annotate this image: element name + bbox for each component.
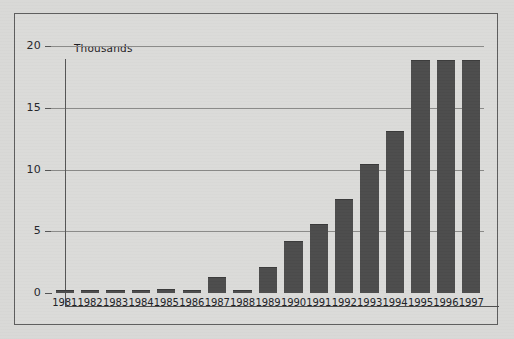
bar-fill-1997 xyxy=(462,60,480,293)
x-tick-label-1991: 1991 xyxy=(306,297,331,308)
bar-1985[interactable] xyxy=(157,46,175,293)
bar-fill-1996 xyxy=(437,60,455,293)
bar-1990[interactable] xyxy=(284,46,302,293)
y-tick-label-10: 10 xyxy=(0,163,41,176)
bar-fill-1981 xyxy=(56,290,74,293)
bar-series xyxy=(52,46,484,293)
x-tick-label-1993: 1993 xyxy=(357,297,382,308)
x-tick-label-1996: 1996 xyxy=(433,297,458,308)
x-tick-label-1995: 1995 xyxy=(408,297,433,308)
bar-1995[interactable] xyxy=(411,46,429,293)
x-tick-label-1989: 1989 xyxy=(255,297,280,308)
x-tick-label-1981: 1981 xyxy=(52,297,77,308)
x-tick-label-1992: 1992 xyxy=(332,297,357,308)
bar-1992[interactable] xyxy=(335,46,353,293)
x-tick-label-1997: 1997 xyxy=(459,297,484,308)
bar-fill-1986 xyxy=(183,290,201,293)
bar-1986[interactable] xyxy=(183,46,201,293)
x-tick-label-1987: 1987 xyxy=(204,297,229,308)
bar-fill-1989 xyxy=(259,267,277,293)
bar-fill-1993 xyxy=(360,164,378,293)
x-tick-label-1988: 1988 xyxy=(230,297,255,308)
bar-1988[interactable] xyxy=(233,46,251,293)
y-tick-label-0: 0 xyxy=(0,286,41,299)
x-tick-label-1984: 1984 xyxy=(128,297,153,308)
x-tick-label-1994: 1994 xyxy=(382,297,407,308)
y-tick-label-5: 5 xyxy=(0,224,41,237)
y-tick-label-15: 15 xyxy=(0,101,41,114)
bar-1991[interactable] xyxy=(310,46,328,293)
bar-fill-1988 xyxy=(233,290,251,293)
bar-fill-1983 xyxy=(106,290,124,293)
bar-fill-1994 xyxy=(386,131,404,293)
bar-1982[interactable] xyxy=(81,46,99,293)
bar-1994[interactable] xyxy=(386,46,404,293)
bar-fill-1995 xyxy=(411,60,429,293)
bar-1997[interactable] xyxy=(462,46,480,293)
x-tick-label-1983: 1983 xyxy=(103,297,128,308)
bar-1983[interactable] xyxy=(106,46,124,293)
bar-fill-1992 xyxy=(335,199,353,293)
bar-fill-1984 xyxy=(132,290,150,293)
bar-fill-1982 xyxy=(81,290,99,293)
x-axis-tick-labels: 1981198219831984198519861987198819891990… xyxy=(52,297,484,315)
y-axis-tick-labels: 05101520 xyxy=(15,14,57,339)
y-tick-mark-0 xyxy=(45,293,52,294)
bar-1987[interactable] xyxy=(208,46,226,293)
bar-1984[interactable] xyxy=(132,46,150,293)
bar-fill-1990 xyxy=(284,241,302,293)
bar-fill-1985 xyxy=(157,289,175,293)
y-tick-label-20: 20 xyxy=(0,39,41,52)
x-tick-label-1985: 1985 xyxy=(154,297,179,308)
x-tick-label-1986: 1986 xyxy=(179,297,204,308)
bar-1993[interactable] xyxy=(360,46,378,293)
bar-1981[interactable] xyxy=(56,46,74,293)
x-tick-label-1982: 1982 xyxy=(77,297,102,308)
bar-1996[interactable] xyxy=(437,46,455,293)
bar-fill-1991 xyxy=(310,224,328,293)
bar-1989[interactable] xyxy=(259,46,277,293)
x-tick-label-1990: 1990 xyxy=(281,297,306,308)
bar-fill-1987 xyxy=(208,277,226,293)
chart-figure: Thousands 05101520 198119821983198419851… xyxy=(0,0,514,339)
chart-frame: Thousands 05101520 198119821983198419851… xyxy=(14,13,498,325)
